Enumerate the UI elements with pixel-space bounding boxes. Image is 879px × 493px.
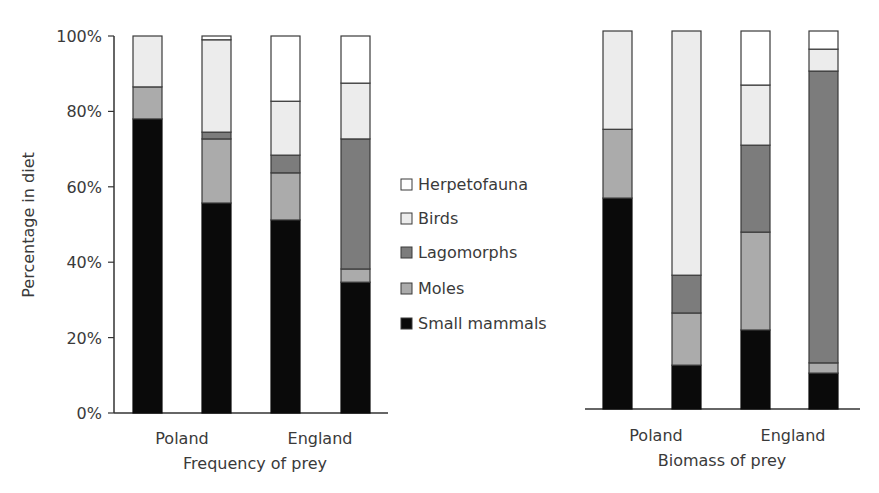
bar-segment-herpetofauna xyxy=(341,36,370,83)
legend-label: Lagomorphs xyxy=(418,243,517,262)
bar-segment-moles xyxy=(271,173,300,220)
stacked-bar xyxy=(133,36,162,413)
legend-swatch xyxy=(401,318,412,329)
bar-segment-herpetofauna xyxy=(741,31,770,85)
bar-segment-lagomorphs xyxy=(341,139,370,269)
bar-segment-birds xyxy=(202,40,231,132)
x-group-label: Poland xyxy=(629,426,682,445)
x-axis-title: Frequency of prey xyxy=(183,454,327,473)
legend-swatch xyxy=(401,283,412,294)
y-tick-label: 80% xyxy=(66,102,102,121)
x-group-label: Poland xyxy=(155,429,208,448)
bar-segment-lagomorphs xyxy=(672,275,701,313)
legend-swatch xyxy=(401,179,412,190)
bar-segment-moles xyxy=(741,232,770,330)
x-group-label: England xyxy=(288,429,353,448)
stacked-bar xyxy=(202,36,231,413)
diet-composition-charts: 0%20%40%60%80%100%Percentage in dietPola… xyxy=(0,0,879,493)
bar-segment-birds xyxy=(809,49,838,71)
legend: HerpetofaunaBirdsLagomorphsMolesSmall ma… xyxy=(401,175,547,333)
stacked-bar xyxy=(341,36,370,413)
bar-segment-small-mammals xyxy=(133,119,162,413)
legend-item-birds: Birds xyxy=(401,209,458,228)
bar-segment-small-mammals xyxy=(741,330,770,409)
legend-swatch xyxy=(401,247,412,258)
bar-segment-moles xyxy=(341,269,370,282)
legend-item-small-mammals: Small mammals xyxy=(401,314,547,333)
bar-segment-moles xyxy=(133,87,162,119)
stacked-bar xyxy=(672,31,701,409)
legend-swatch xyxy=(401,213,412,224)
legend-label: Small mammals xyxy=(418,314,547,333)
frequency-of-prey-chart: 0%20%40%60%80%100%Percentage in dietPola… xyxy=(19,27,388,473)
y-tick-label: 20% xyxy=(66,329,102,348)
bar-segment-herpetofauna xyxy=(271,36,300,101)
stacked-bar xyxy=(809,31,838,409)
bar-segment-lagomorphs xyxy=(741,145,770,232)
bar-segment-lagomorphs xyxy=(202,132,231,139)
bar-segment-herpetofauna xyxy=(202,36,231,40)
bar-segment-birds xyxy=(341,83,370,139)
y-axis-title: Percentage in diet xyxy=(19,152,38,297)
bar-segment-birds xyxy=(271,101,300,155)
y-tick-label: 40% xyxy=(66,253,102,272)
bar-segment-moles xyxy=(202,139,231,203)
y-tick-label: 60% xyxy=(66,178,102,197)
biomass-of-prey-chart: PolandEnglandBiomass of prey xyxy=(585,31,860,470)
bar-segment-small-mammals xyxy=(271,220,300,413)
bar-segment-herpetofauna xyxy=(809,31,838,49)
y-tick-label: 0% xyxy=(77,404,102,423)
stacked-bar xyxy=(603,31,632,409)
bar-segment-lagomorphs xyxy=(271,155,300,173)
legend-label: Birds xyxy=(418,209,458,228)
legend-item-herpetofauna: Herpetofauna xyxy=(401,175,528,194)
bar-segment-birds xyxy=(133,36,162,87)
bar-segment-small-mammals xyxy=(603,198,632,409)
bar-segment-small-mammals xyxy=(341,282,370,413)
x-group-label: England xyxy=(761,426,826,445)
legend-item-lagomorphs: Lagomorphs xyxy=(401,243,517,262)
legend-label: Herpetofauna xyxy=(418,175,528,194)
y-tick-label: 100% xyxy=(56,27,102,46)
bar-segment-moles xyxy=(809,363,838,373)
bar-segment-birds xyxy=(603,31,632,129)
bar-segment-birds xyxy=(672,31,701,275)
bar-segment-small-mammals xyxy=(672,365,701,409)
bar-segment-small-mammals xyxy=(809,373,838,409)
bar-segment-birds xyxy=(741,85,770,145)
legend-label: Moles xyxy=(418,279,464,298)
x-axis-title: Biomass of prey xyxy=(658,451,787,470)
legend-item-moles: Moles xyxy=(401,279,464,298)
bar-segment-small-mammals xyxy=(202,203,231,413)
stacked-bar xyxy=(271,36,300,413)
bar-segment-lagomorphs xyxy=(809,71,838,363)
stacked-bar xyxy=(741,31,770,409)
bar-segment-moles xyxy=(603,129,632,198)
bar-segment-moles xyxy=(672,313,701,365)
